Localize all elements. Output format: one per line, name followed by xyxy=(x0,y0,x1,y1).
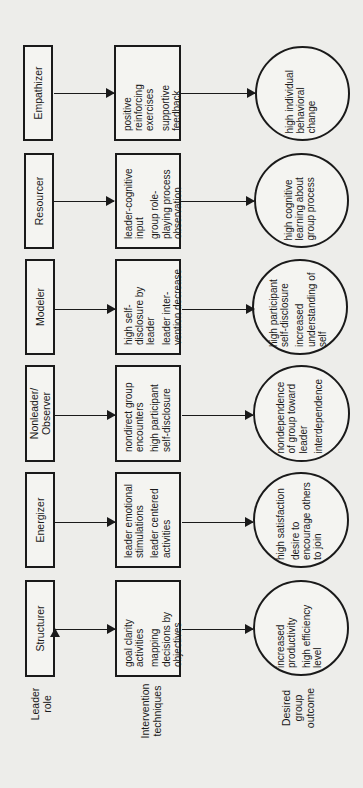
technique-box-empathizer: positive reinforcing exercises supportiv… xyxy=(114,45,181,141)
arrow-resourcer-role-to-technique xyxy=(54,201,114,202)
label-intervention-techniques: Intervention techniques xyxy=(139,674,163,748)
arrow-structurer-technique-to-outcome xyxy=(182,629,253,630)
outcome-item: increased understanding of self xyxy=(294,267,328,347)
technique-item: leader emotional stimulations xyxy=(123,478,145,558)
label-text: group xyxy=(292,678,304,738)
role-label: Resourcer xyxy=(33,177,45,225)
leader-role-diagram: Leader role Intervention techniques Desi… xyxy=(0,0,363,788)
role-box-energizer: Energizer xyxy=(25,472,55,568)
label-text: Intervention xyxy=(139,674,151,748)
role-label: Empathizer xyxy=(32,66,44,119)
technique-item: high participant self-disclosure xyxy=(149,371,171,452)
technique-item: leader-cognitive input xyxy=(123,159,145,239)
outcome-item: high satisfaction xyxy=(275,480,286,560)
role-label: Nonleader/ xyxy=(28,388,40,439)
arrow-empathizer-role-to-technique xyxy=(54,93,114,94)
label-text: Desired xyxy=(280,678,292,738)
label-text: role xyxy=(41,682,53,726)
outcome-item: high individual behavioral change xyxy=(284,54,318,134)
role-label: Energizer xyxy=(34,498,46,543)
label-desired-group-outcome: Desired group outcome xyxy=(280,678,316,738)
arrow-nonleader-technique-to-outcome xyxy=(182,415,253,416)
technique-item: supportive feedback xyxy=(160,51,182,131)
technique-item: high self-disclosure by leader xyxy=(123,265,157,345)
outcome-item: nondependence of group toward leader xyxy=(275,374,309,454)
role-box-resourcer: Resourcer xyxy=(24,153,54,249)
role-label: Structurer xyxy=(34,605,46,651)
technique-item: leader centered activities xyxy=(149,478,171,558)
technique-item: leader inter-vention decrease xyxy=(161,265,183,345)
outcome-circle-structurer: increased productivity high efficiency l… xyxy=(253,580,349,676)
arrow-energizer-role-to-technique xyxy=(55,522,115,523)
technique-box-structurer: goal clarity activities mapping decision… xyxy=(115,580,181,677)
technique-box-resourcer: leader-cognitive input group role-playin… xyxy=(115,153,181,249)
technique-item: group role-playing process observation xyxy=(149,159,183,239)
role-box-nonleader-observer: Nonleader/ Observer xyxy=(25,365,55,462)
technique-item: goal clarity activities xyxy=(123,586,145,667)
outcome-item: desire to encourage others to join xyxy=(290,480,324,560)
technique-item: mapping decisions by objectives xyxy=(149,586,183,667)
technique-item: positive reinforcing exercises xyxy=(122,51,156,131)
role-box-modeler: Modeler xyxy=(25,259,55,355)
technique-item: nondirect group encounters xyxy=(123,371,145,452)
technique-box-modeler: high self-disclosure by leader leader in… xyxy=(115,259,181,355)
role-label: Observer xyxy=(40,388,52,439)
technique-box-nonleader-observer: nondirect group encounters high particip… xyxy=(115,365,181,462)
arrow-resourcer-technique-to-outcome xyxy=(181,201,254,202)
outcome-item: increased productivity xyxy=(275,588,297,668)
outcome-circle-resourcer: high cognitive learning about group proc… xyxy=(254,153,349,248)
outcome-circle-modeler: high participant self-disclosure increas… xyxy=(252,259,348,355)
technique-box-energizer: leader emotional stimulations leader cen… xyxy=(115,472,181,568)
arrow-modeler-role-to-technique xyxy=(55,309,115,310)
outcome-item: interdependence xyxy=(313,374,324,454)
label-text: techniques xyxy=(151,674,163,748)
role-box-empathizer: Empathizer xyxy=(23,45,53,141)
arrow-structurer-role-to-technique xyxy=(55,629,115,630)
outcome-circle-empathizer: high individual behavioral change xyxy=(255,46,350,141)
arrow-empathizer-technique-to-outcome xyxy=(181,93,255,94)
label-leader-role: Leader role xyxy=(29,682,53,726)
arrow-energizer-technique-to-outcome xyxy=(182,522,253,523)
outcome-item: high cognitive learning about group proc… xyxy=(283,161,317,241)
outcome-circle-nonleader-observer: nondependence of group toward leader int… xyxy=(253,365,350,462)
arrow-modeler-technique-to-outcome xyxy=(182,309,254,310)
role-label: Modeler xyxy=(34,288,46,326)
outcome-item: high efficiency level xyxy=(301,588,323,668)
label-text: outcome xyxy=(304,678,316,738)
outcome-item: high participant self-disclosure xyxy=(268,267,290,347)
outcome-circle-energizer: high satisfaction desire to encourage ot… xyxy=(253,472,349,568)
arrow-nonleader-role-to-technique xyxy=(55,415,115,416)
label-text: Leader xyxy=(29,682,41,726)
